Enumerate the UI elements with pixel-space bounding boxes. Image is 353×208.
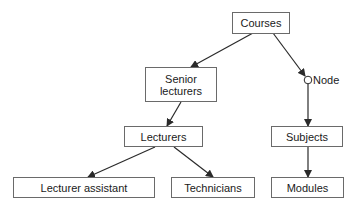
node-courses: Courses xyxy=(232,12,290,34)
node-marker-icon xyxy=(304,76,312,84)
node-lecturer-assistant-label: Lecturer assistant xyxy=(41,182,128,194)
node-courses-label: Courses xyxy=(241,17,282,29)
node-lecturer-assistant: Lecturer assistant xyxy=(13,177,155,198)
node-modules-label: Modules xyxy=(287,182,329,194)
node-lecturers: Lecturers xyxy=(124,126,203,147)
node-modules: Modules xyxy=(271,177,344,198)
node-technicians-label: Technicians xyxy=(184,182,241,194)
edge-lecturers-assistant xyxy=(88,147,155,177)
edge-lecturers-technicians xyxy=(174,147,213,177)
hierarchy-diagram: Courses Senior lecturers Lecturers Subje… xyxy=(0,0,353,208)
node-senior-lecturers-line1: Senior xyxy=(165,73,197,85)
edge-senior-lecturers xyxy=(167,102,181,126)
node-subjects-label: Subjects xyxy=(286,131,328,143)
edge-courses-senior xyxy=(191,33,253,67)
node-subjects: Subjects xyxy=(271,126,343,147)
node-senior-lecturers-line2: lecturers xyxy=(160,85,202,97)
node-marker-label: Node xyxy=(313,74,339,86)
node-lecturers-label: Lecturers xyxy=(141,131,187,143)
node-senior-lecturers: Senior lecturers xyxy=(145,67,217,102)
node-technicians: Technicians xyxy=(171,177,255,198)
edge-courses-node xyxy=(273,33,305,76)
